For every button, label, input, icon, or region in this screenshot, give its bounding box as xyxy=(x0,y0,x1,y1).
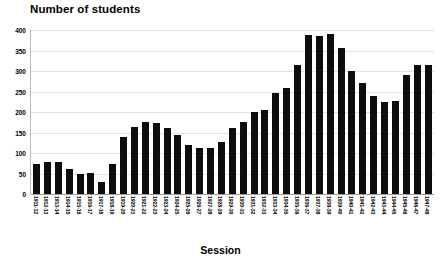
bar xyxy=(120,137,127,194)
bar xyxy=(240,122,247,194)
bar xyxy=(131,127,138,194)
bar xyxy=(392,101,399,194)
bar xyxy=(98,182,105,194)
bar xyxy=(142,122,149,194)
y-tick-label: 0 xyxy=(22,191,26,198)
y-tick-label: 300 xyxy=(15,68,26,75)
bar xyxy=(316,36,323,194)
x-tick-label: 1942-43 xyxy=(369,196,376,240)
x-tick-label: 1913-14 xyxy=(54,196,61,240)
bar xyxy=(414,65,421,194)
bar xyxy=(294,65,301,194)
x-tick-label: 1926-27 xyxy=(195,196,202,240)
y-tick-label: 400 xyxy=(15,27,26,34)
x-tick-label: 1930-31 xyxy=(239,196,246,240)
bar xyxy=(283,88,290,194)
bar xyxy=(381,102,388,194)
x-tick-label: 1936-37 xyxy=(304,196,311,240)
bar xyxy=(348,71,355,194)
bar xyxy=(403,75,410,194)
bar xyxy=(338,48,345,194)
bar xyxy=(327,34,334,194)
bar xyxy=(185,145,192,194)
x-tick-label: 1939-40 xyxy=(337,196,344,240)
bar xyxy=(153,123,160,194)
x-tick-label: 1920-21 xyxy=(130,196,137,240)
bar xyxy=(251,112,258,194)
x-tick-label: 1916-17 xyxy=(86,196,93,240)
y-axis-tick-labels: 050100150200250300350400 xyxy=(0,30,30,194)
x-tick-label: 1925-26 xyxy=(184,196,191,240)
bar xyxy=(207,148,214,194)
bar xyxy=(305,35,312,194)
bar xyxy=(77,174,84,195)
bar xyxy=(164,128,171,194)
x-tick-label: 1911-12 xyxy=(32,196,39,240)
x-tick-label: 1924-25 xyxy=(173,196,180,240)
x-tick-label: 1933-34 xyxy=(271,196,278,240)
bar xyxy=(87,173,94,194)
y-tick-label: 50 xyxy=(19,170,26,177)
x-tick-label: 1917-18 xyxy=(97,196,104,240)
x-tick-label: 1915-16 xyxy=(76,196,83,240)
x-tick-label: 1932-33 xyxy=(260,196,267,240)
x-tick-label: 1945-46 xyxy=(402,196,409,240)
bar-chart: Number of students 050100150200250300350… xyxy=(0,0,441,266)
x-tick-label: 1928-29 xyxy=(217,196,224,240)
x-tick-label: 1943-44 xyxy=(380,196,387,240)
x-tick-label: 1929-30 xyxy=(228,196,235,240)
plot-area xyxy=(30,30,434,194)
y-tick-label: 350 xyxy=(15,47,26,54)
bar xyxy=(218,142,225,194)
x-tick-label: 1938-39 xyxy=(326,196,333,240)
x-tick-label: 1919-20 xyxy=(119,196,126,240)
x-tick-label: 1947-48 xyxy=(424,196,431,240)
x-tick-label: 1946-47 xyxy=(413,196,420,240)
x-tick-label: 1914-15 xyxy=(65,196,72,240)
bar xyxy=(55,162,62,194)
y-tick-label: 150 xyxy=(15,129,26,136)
chart-title: Number of students xyxy=(30,3,140,15)
bar xyxy=(174,135,181,194)
x-tick-label: 1921-22 xyxy=(141,196,148,240)
x-tick-label: 1940-41 xyxy=(347,196,354,240)
bar xyxy=(425,65,432,194)
bar xyxy=(44,162,51,194)
x-tick-label: 1923-24 xyxy=(163,196,170,240)
x-tick-label: 1918-19 xyxy=(108,196,115,240)
x-tick-label: 1912-13 xyxy=(43,196,50,240)
y-tick-label: 100 xyxy=(15,150,26,157)
bar xyxy=(359,83,366,194)
x-tick-label: 1927-28 xyxy=(206,196,213,240)
gridline-0 xyxy=(31,194,434,195)
x-tick-label: 1922-23 xyxy=(152,196,159,240)
x-tick-label: 1937-38 xyxy=(315,196,322,240)
x-axis-tick-labels: 1911-121912-131913-141914-151915-161916-… xyxy=(30,196,433,240)
bar xyxy=(109,164,116,194)
bar xyxy=(370,96,377,194)
x-tick-label: 1931-32 xyxy=(250,196,257,240)
y-tick-label: 250 xyxy=(15,88,26,95)
bar xyxy=(229,128,236,194)
bar xyxy=(66,169,73,194)
x-tick-label: 1935-36 xyxy=(293,196,300,240)
bar-series xyxy=(31,30,434,194)
y-tick-label: 200 xyxy=(15,109,26,116)
x-tick-label: 1941-42 xyxy=(358,196,365,240)
bar xyxy=(261,110,268,194)
bar xyxy=(33,164,40,194)
x-axis-title: Session xyxy=(0,244,441,256)
bar xyxy=(272,93,279,194)
bar xyxy=(196,148,203,194)
x-tick-label: 1934-35 xyxy=(282,196,289,240)
x-tick-label: 1944-45 xyxy=(391,196,398,240)
